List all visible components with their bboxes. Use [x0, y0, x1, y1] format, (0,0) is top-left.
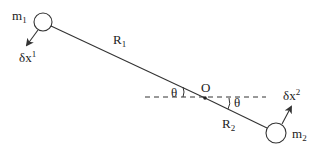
- displacement-arrow-2: [282, 107, 291, 124]
- displacement-label-1: δx1: [19, 49, 36, 65]
- displacement-label-2: δx2: [283, 87, 300, 103]
- diagram-canvas: m1 m2 R1 R2 O θ θ δx1 δx2: [0, 0, 322, 151]
- angle-label-right: θ: [234, 95, 240, 110]
- displacement-arrow-1: [27, 30, 38, 45]
- arm-r2-label: R2: [222, 116, 235, 133]
- mass-m2-label: m2: [292, 126, 307, 143]
- angle-arc-left: [183, 87, 184, 97]
- pivot-point: [203, 96, 207, 100]
- mass-m1-label: m1: [12, 8, 27, 25]
- rod-r1: [51, 26, 205, 98]
- angle-arc-right: [228, 98, 230, 109]
- mass-m1-circle: [34, 13, 52, 31]
- pivot-label: O: [201, 80, 210, 95]
- angle-label-left: θ: [171, 85, 177, 100]
- arm-r1-label: R1: [113, 32, 126, 49]
- mass-m2-circle: [266, 123, 286, 143]
